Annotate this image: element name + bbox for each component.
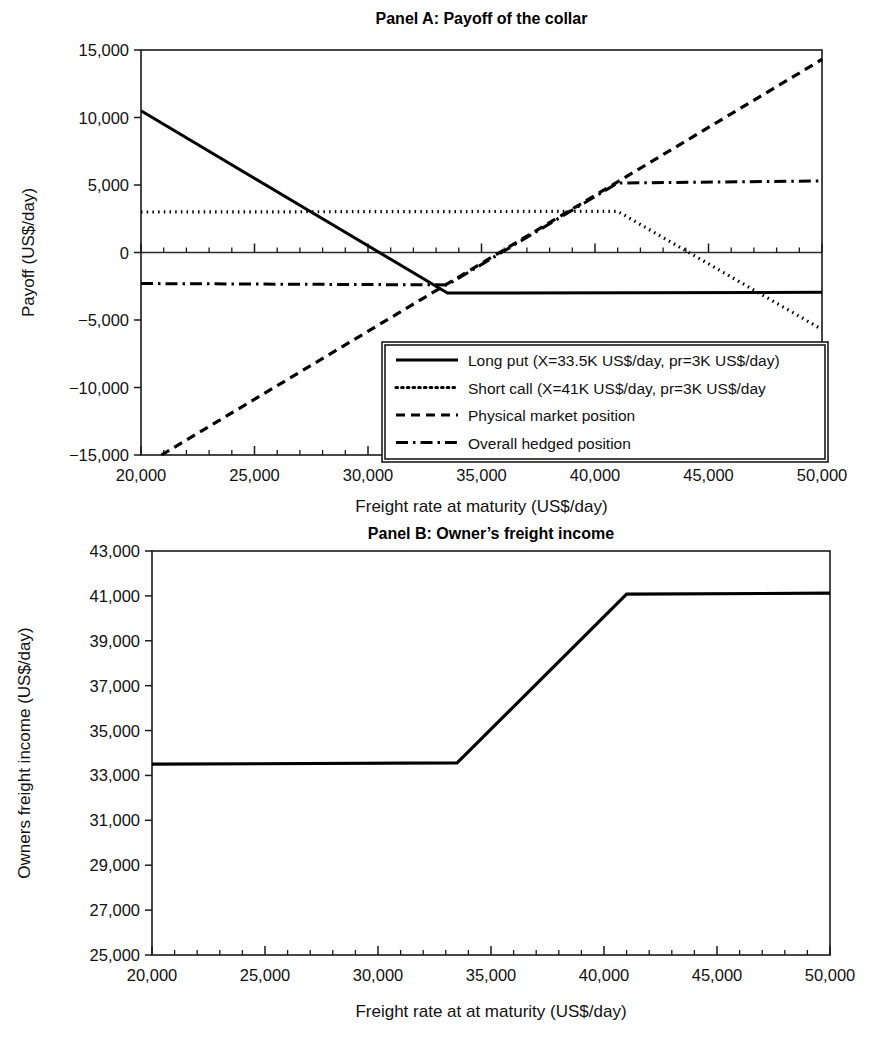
x-tick-label: 30,000 xyxy=(343,466,393,484)
panel-b-y-axis-title: Owners freight income (US$/day) xyxy=(15,627,34,878)
panel-b-plot-frame xyxy=(152,551,830,955)
series-line-2 xyxy=(141,211,822,329)
y-tick-label: 0 xyxy=(120,244,129,262)
y-tick-label: 29,000 xyxy=(90,856,140,874)
x-tick-label: 25,000 xyxy=(240,966,290,984)
figure-root: Panel A: Payoff of the collar −15,000−10… xyxy=(0,0,884,1055)
panel-a-legend: Long put (X=33.5K US$/day, pr=3K US$/day… xyxy=(382,342,828,462)
panel-b-tick-marks xyxy=(145,551,830,955)
y-tick-label: −10,000 xyxy=(69,379,129,397)
panel-a-x-tick-labels: 20,00025,00030,00035,00040,00045,00050,0… xyxy=(116,466,847,484)
legend-entry-label: Overall hedged position xyxy=(468,435,631,452)
legend-entry-label: Long put (X=33.5K US$/day, pr=3K US$/day… xyxy=(468,352,780,369)
legend-entry-label: Physical market position xyxy=(468,407,635,424)
y-tick-label: 37,000 xyxy=(90,677,140,695)
y-tick-label: 41,000 xyxy=(90,587,140,605)
panel-b-chart-canvas: Panel B: Owner’s freight income 25,00027… xyxy=(0,520,884,1055)
panel-b-series-group xyxy=(152,593,830,764)
panel-a-x-axis-title: Freight rate at maturity (US$/day) xyxy=(355,497,607,516)
y-tick-label: 39,000 xyxy=(90,632,140,650)
y-tick-label: 43,000 xyxy=(90,542,140,560)
x-tick-label: 40,000 xyxy=(579,966,629,984)
x-tick-label: 35,000 xyxy=(456,466,506,484)
x-tick-label: 30,000 xyxy=(353,966,403,984)
legend-entry-label: Short call (X=41K US$/day, pr=3K US$/day xyxy=(468,380,766,397)
series-line-1 xyxy=(152,593,830,764)
y-tick-label: 33,000 xyxy=(90,766,140,784)
y-tick-label: 31,000 xyxy=(90,811,140,829)
y-tick-label: 15,000 xyxy=(79,41,129,59)
panel-b-title: Panel B: Owner’s freight income xyxy=(368,525,614,542)
x-tick-label: 35,000 xyxy=(466,966,516,984)
y-tick-label: 35,000 xyxy=(90,722,140,740)
panel-b-owners-freight-income: Panel B: Owner’s freight income 25,00027… xyxy=(0,520,884,1055)
panel-a-y-axis-title: Payoff (US$/day) xyxy=(19,188,38,317)
x-tick-label: 45,000 xyxy=(692,966,742,984)
y-tick-label: 10,000 xyxy=(79,109,129,127)
panel-b-y-tick-labels: 25,00027,00029,00031,00033,00035,00037,0… xyxy=(90,542,140,964)
x-tick-label: 20,000 xyxy=(127,966,177,984)
x-tick-label: 50,000 xyxy=(797,466,847,484)
panel-a-title: Panel A: Payoff of the collar xyxy=(376,10,588,27)
panel-a-payoff-of-the-collar: Panel A: Payoff of the collar −15,000−10… xyxy=(0,0,884,520)
y-tick-label: 27,000 xyxy=(90,901,140,919)
y-tick-label: −15,000 xyxy=(69,446,129,464)
panel-a-chart-canvas: Panel A: Payoff of the collar −15,000−10… xyxy=(0,0,884,520)
y-tick-label: −5,000 xyxy=(78,311,129,329)
x-tick-label: 45,000 xyxy=(683,466,733,484)
panel-b-x-tick-labels: 20,00025,00030,00035,00040,00045,00050,0… xyxy=(127,966,855,984)
x-tick-label: 40,000 xyxy=(570,466,620,484)
plot-area-border xyxy=(152,551,830,955)
x-tick-label: 50,000 xyxy=(805,966,855,984)
panel-a-y-tick-labels: −15,000−10,000−5,00005,00010,00015,000 xyxy=(69,41,129,464)
y-tick-label: 25,000 xyxy=(90,946,140,964)
x-tick-label: 25,000 xyxy=(229,466,279,484)
panel-b-x-axis-title: Freight rate at at maturity (US$/day) xyxy=(355,1002,626,1021)
y-tick-label: 5,000 xyxy=(88,176,129,194)
x-tick-label: 20,000 xyxy=(116,466,166,484)
